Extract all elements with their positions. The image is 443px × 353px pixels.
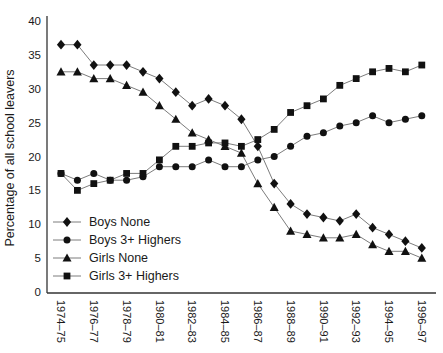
- square-marker: [254, 136, 261, 143]
- y-tick-label: 25: [28, 117, 41, 129]
- diamond-marker: [106, 60, 114, 70]
- diamond-marker: [369, 223, 377, 233]
- diamond-marker: [221, 101, 229, 111]
- diamond-marker: [237, 114, 245, 124]
- square-marker: [156, 156, 163, 163]
- x-tick-label: 1990–91: [318, 300, 330, 343]
- y-tick-label: 40: [28, 15, 41, 27]
- x-tick-label: 1996–97: [416, 300, 428, 343]
- square-marker: [238, 143, 245, 150]
- circle-marker: [90, 170, 97, 177]
- chart-canvas: 05101520253035401974–751976–771978–79198…: [0, 0, 443, 353]
- square-marker: [287, 109, 294, 116]
- triangle-marker: [286, 226, 295, 234]
- circle-marker: [205, 156, 212, 163]
- diamond-marker: [319, 213, 327, 223]
- triangle-marker: [237, 149, 246, 157]
- triangle-marker: [171, 115, 180, 123]
- diamond-marker: [401, 236, 409, 246]
- circle-marker: [222, 163, 229, 170]
- circle-marker: [271, 153, 278, 160]
- triangle-marker: [139, 88, 148, 96]
- circle-marker: [287, 143, 294, 150]
- square-marker: [369, 68, 376, 75]
- series-line-girls-3-highers: [61, 65, 422, 190]
- square-marker: [304, 102, 311, 109]
- triangle-marker: [352, 230, 361, 238]
- x-tick-label: 1976–77: [88, 300, 100, 343]
- x-tick-label: 1984–85: [219, 300, 231, 343]
- legend-label: Boys None: [89, 215, 150, 229]
- square-marker: [418, 62, 425, 69]
- circle-marker: [402, 116, 409, 123]
- circle-marker: [336, 123, 343, 130]
- square-marker: [123, 170, 130, 177]
- diamond-marker: [172, 87, 180, 97]
- triangle-marker: [270, 203, 279, 211]
- square-marker: [402, 68, 409, 75]
- legend-label: Boys 3+ Highers: [89, 233, 181, 247]
- square-marker: [74, 187, 81, 194]
- diamond-marker: [57, 40, 65, 50]
- square-marker: [172, 143, 179, 150]
- triangle-marker: [122, 81, 131, 89]
- y-axis-title: Percentage of all school leavers: [3, 69, 17, 246]
- square-marker: [386, 65, 393, 72]
- circle-marker: [353, 119, 360, 126]
- y-tick-label: 30: [28, 83, 41, 95]
- diamond-marker: [188, 101, 196, 111]
- square-marker: [90, 180, 97, 187]
- circle-marker: [123, 177, 130, 184]
- circle-marker: [64, 237, 71, 244]
- circle-marker: [156, 163, 163, 170]
- x-tick-label: 1974–75: [55, 300, 67, 343]
- y-tick-label: 35: [28, 49, 41, 61]
- legend-label: Girls 3+ Highers: [89, 269, 179, 283]
- diamond-marker: [303, 209, 311, 219]
- x-tick-label: 1978–79: [121, 300, 133, 343]
- square-marker: [222, 140, 229, 147]
- diamond-marker: [418, 243, 426, 253]
- square-marker: [58, 170, 65, 177]
- diamond-marker: [123, 60, 131, 70]
- square-marker: [140, 170, 147, 177]
- triangle-marker: [106, 74, 115, 82]
- diamond-marker: [205, 94, 213, 104]
- x-tick-label: 1992–93: [350, 300, 362, 343]
- circle-marker: [320, 129, 327, 136]
- y-tick-label: 20: [28, 151, 41, 163]
- triangle-marker: [89, 74, 98, 82]
- x-tick-label: 1988–89: [285, 300, 297, 343]
- school-leavers-line-chart: 05101520253035401974–751976–771978–79198…: [0, 0, 443, 353]
- circle-marker: [74, 177, 81, 184]
- diamond-marker: [63, 217, 71, 227]
- square-marker: [336, 82, 343, 89]
- legend-label: Girls None: [89, 251, 148, 265]
- diamond-marker: [385, 230, 393, 240]
- square-marker: [64, 273, 71, 280]
- diamond-marker: [139, 67, 147, 77]
- circle-marker: [418, 112, 425, 119]
- circle-marker: [254, 156, 261, 163]
- square-marker: [107, 177, 114, 184]
- circle-marker: [369, 112, 376, 119]
- x-tick-label: 1986–87: [252, 300, 264, 343]
- diamond-marker: [352, 209, 360, 219]
- square-marker: [353, 75, 360, 82]
- circle-marker: [238, 163, 245, 170]
- circle-marker: [386, 119, 393, 126]
- x-tick-label: 1982–83: [186, 300, 198, 343]
- circle-marker: [304, 133, 311, 140]
- triangle-marker: [368, 240, 377, 248]
- y-tick-label: 15: [28, 184, 41, 196]
- triangle-marker: [417, 254, 426, 262]
- triangle-marker: [188, 128, 197, 136]
- circle-marker: [189, 163, 196, 170]
- triangle-marker: [253, 179, 262, 187]
- x-tick-label: 1980–81: [154, 300, 166, 343]
- square-marker: [205, 140, 212, 147]
- y-tick-label: 0: [35, 286, 41, 298]
- square-marker: [271, 126, 278, 133]
- square-marker: [189, 143, 196, 150]
- diamond-marker: [155, 74, 163, 84]
